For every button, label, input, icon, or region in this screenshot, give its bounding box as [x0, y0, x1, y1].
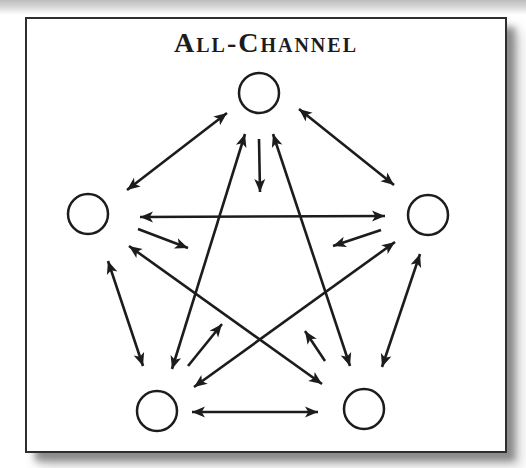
edge-top-left — [127, 113, 227, 190]
edge-left-right — [140, 216, 385, 217]
stub-arrow-left — [138, 229, 188, 248]
edge-top-bottom-left — [172, 134, 245, 369]
network-diagram — [27, 19, 505, 451]
scanned-page: All-Channel — [0, 0, 526, 468]
stub-arrow-right — [333, 230, 381, 246]
stub-arrow-bottom-left — [188, 324, 222, 366]
node-bottom-left — [137, 391, 177, 431]
node-left — [68, 194, 108, 234]
scan-shadow-top-strip — [0, 0, 526, 15]
node-right — [408, 195, 448, 235]
node-bottom-right — [344, 389, 384, 429]
node-layer — [68, 73, 448, 431]
node-top — [239, 73, 279, 113]
stub-arrow-top — [259, 139, 260, 192]
edge-left-bottom-left — [108, 261, 143, 366]
edge-top-right — [299, 109, 394, 185]
edge-layer — [108, 109, 420, 412]
stub-arrow-bottom-right — [305, 331, 325, 361]
edge-top-bottom-right — [273, 134, 350, 366]
edge-right-bottom-right — [382, 254, 420, 367]
figure-title: All-Channel — [27, 27, 505, 59]
figure-frame: All-Channel — [25, 17, 507, 453]
